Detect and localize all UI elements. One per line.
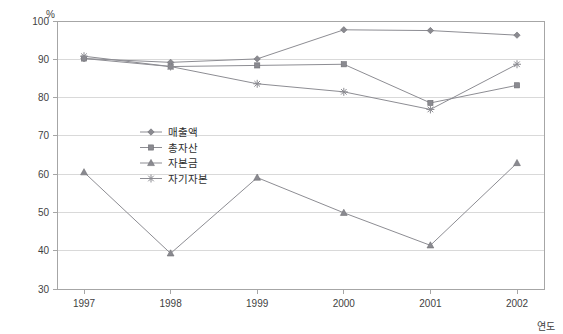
y-tick-label: 70 <box>38 130 50 141</box>
plot-area-frame <box>57 21 544 289</box>
data-point <box>428 100 433 105</box>
y-tick-label: 50 <box>38 207 50 218</box>
y-tick-label: 90 <box>38 54 50 65</box>
legend-label: 매출액 <box>168 126 198 138</box>
data-point <box>254 56 260 62</box>
data-series-layer <box>80 27 521 256</box>
line-chart-plot: 30405060708090100 1997199819992000200120… <box>0 0 563 334</box>
legend-marker <box>148 129 154 135</box>
data-point <box>513 60 521 68</box>
data-point <box>254 174 261 180</box>
x-tick-label: 2000 <box>333 298 356 309</box>
legend-marker <box>148 145 153 150</box>
legend-label: 자본금 <box>168 157 198 169</box>
x-axis-title: 연도 <box>537 321 555 332</box>
x-axis-tick-labels: 199719981999200020012002 <box>73 298 529 309</box>
y-tick-label: 60 <box>38 169 50 180</box>
y-axis-tick-marks <box>53 21 57 289</box>
data-point <box>341 62 346 67</box>
legend-item[interactable]: 총자산 <box>140 142 198 154</box>
data-point <box>514 32 520 38</box>
x-tick-label: 2002 <box>506 298 529 309</box>
legend-marker <box>147 175 155 183</box>
data-point <box>514 159 521 165</box>
data-point <box>81 169 88 175</box>
chart-title-faded <box>120 0 460 10</box>
y-tick-label: 30 <box>38 284 50 295</box>
y-tick-label: 80 <box>38 92 50 103</box>
x-tick-label: 1998 <box>159 298 182 309</box>
x-tick-label: 1997 <box>73 298 96 309</box>
y-tick-label: 40 <box>38 245 50 256</box>
data-point <box>80 52 88 60</box>
data-point <box>427 27 433 33</box>
legend-item[interactable]: 자본금 <box>140 157 198 169</box>
y-axis-tick-labels: 30405060708090100 <box>32 16 49 295</box>
x-tick-label: 1999 <box>246 298 269 309</box>
x-axis-tick-marks <box>84 289 517 294</box>
y-axis-unit-label: % <box>46 9 55 20</box>
chart-container: 30405060708090100 1997199819992000200120… <box>0 0 563 334</box>
data-point <box>426 105 434 113</box>
data-point <box>253 80 261 88</box>
x-tick-label: 2001 <box>419 298 442 309</box>
data-point <box>255 63 260 68</box>
legend-label: 총자산 <box>168 142 198 154</box>
data-point <box>340 88 348 96</box>
chart-legend: 매출액총자산자본금자기자본 <box>140 126 208 185</box>
legend-label: 자기자본 <box>168 173 208 185</box>
data-point <box>341 27 347 33</box>
data-point <box>514 83 519 88</box>
gridlines-group <box>57 21 544 251</box>
